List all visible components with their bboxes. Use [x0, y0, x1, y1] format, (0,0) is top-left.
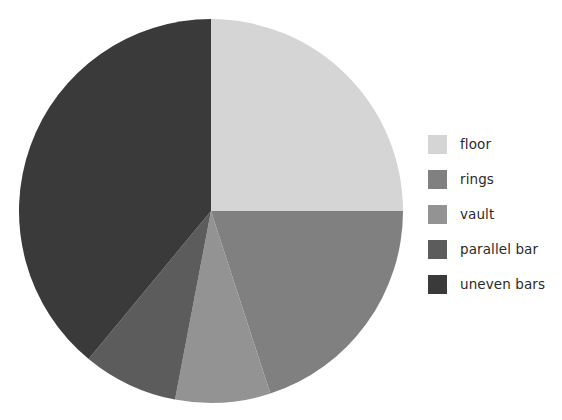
legend-swatch-rings: [428, 170, 447, 189]
legend-item-floor[interactable]: floor: [428, 127, 558, 162]
legend-swatch-floor: [428, 135, 447, 154]
legend-item-vault[interactable]: vault: [428, 197, 558, 232]
pie-slice-group: [19, 19, 403, 403]
legend-swatch-parallel-bar: [428, 240, 447, 259]
legend-label: rings: [460, 173, 494, 187]
legend-swatch-uneven-bars: [428, 275, 447, 294]
legend-label: vault: [460, 208, 494, 222]
legend-item-uneven-bars[interactable]: uneven bars: [428, 267, 558, 302]
legend-label: floor: [460, 138, 491, 152]
legend-label: parallel bar: [460, 243, 538, 257]
legend-label: uneven bars: [460, 278, 545, 292]
legend-item-rings[interactable]: rings: [428, 162, 558, 197]
chart-legend: floorringsvaultparallel baruneven bars: [428, 127, 558, 302]
pie-chart-figure: floorringsvaultparallel baruneven bars: [0, 0, 562, 420]
legend-item-parallel-bar[interactable]: parallel bar: [428, 232, 558, 267]
pie-slice-floor[interactable]: [211, 19, 403, 211]
legend-swatch-vault: [428, 205, 447, 224]
